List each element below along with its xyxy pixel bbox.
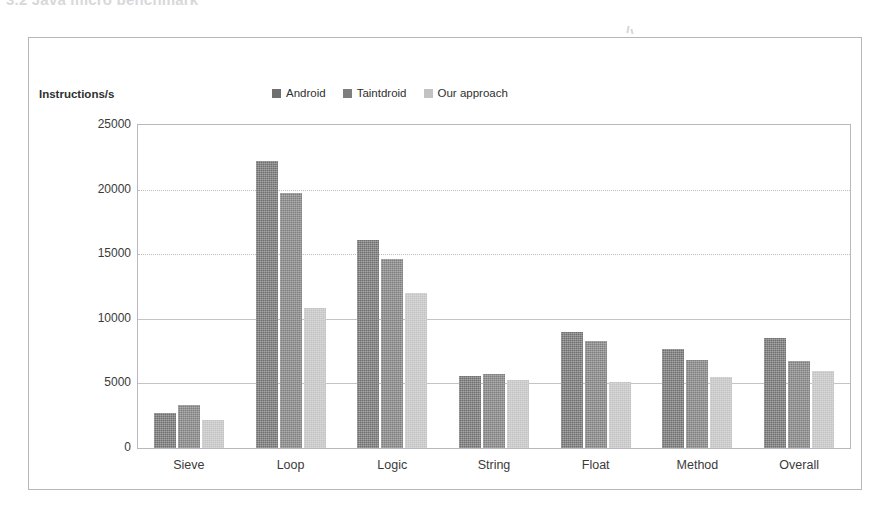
y-axis-tick-label: 5000 [69, 375, 131, 389]
y-axis-tick-label: 25000 [69, 117, 131, 131]
bar [178, 405, 200, 448]
bar [662, 349, 684, 448]
legend-label-taintdroid: Taintdroid [357, 87, 407, 99]
x-axis-tick-label: Logic [377, 458, 407, 472]
y-axis-tick-label: 15000 [69, 246, 131, 260]
x-axis-tick-label: Overall [779, 458, 819, 472]
bar [304, 308, 326, 448]
x-axis-tick-label: Sieve [173, 458, 204, 472]
bar [405, 293, 427, 448]
bars-layer [138, 125, 850, 448]
y-axis-tick-label: 0 [69, 440, 131, 454]
legend-label-our-approach: Our approach [438, 87, 508, 99]
scan-speckle [626, 26, 629, 33]
legend-swatch-our-approach [424, 89, 433, 98]
scan-speckle [630, 29, 633, 34]
x-axis-tick-label: Loop [277, 458, 305, 472]
y-axis-title: Instructions/s [39, 88, 114, 100]
bar [788, 361, 810, 448]
bar [812, 371, 834, 448]
bar [483, 374, 505, 448]
bar [154, 413, 176, 448]
y-axis-tick-label: 20000 [69, 182, 131, 196]
bar [710, 377, 732, 448]
x-axis-tick-label: Float [582, 458, 610, 472]
legend-swatch-android [272, 89, 281, 98]
bar [280, 193, 302, 448]
x-axis-tick-label: Method [677, 458, 719, 472]
y-axis-tick-label: 10000 [69, 311, 131, 325]
chart-legend: Android Taintdroid Our approach [272, 87, 508, 99]
legend-item-android[interactable]: Android [272, 87, 326, 99]
x-axis-tick-labels: SieveLoopLogicStringFloatMethodOverall [138, 458, 850, 486]
bar [686, 360, 708, 449]
y-axis-tick-labels: 0500010000150002000025000 [65, 124, 131, 449]
bar [202, 420, 224, 448]
bar [764, 338, 786, 448]
bar [357, 240, 379, 448]
bar [585, 341, 607, 448]
bar [507, 380, 529, 448]
chart-frame: Instructions/s Android Taintdroid Our ap… [28, 37, 862, 490]
legend-item-taintdroid[interactable]: Taintdroid [343, 87, 407, 99]
page-caption-fragment: 3.2 Java micro benchmark [6, 0, 426, 9]
bar [609, 382, 631, 448]
x-axis-tick-label: String [478, 458, 511, 472]
bar [381, 259, 403, 448]
legend-item-our-approach[interactable]: Our approach [424, 87, 508, 99]
bar [561, 332, 583, 448]
legend-swatch-taintdroid [343, 89, 352, 98]
legend-label-android: Android [286, 87, 326, 99]
bar [459, 376, 481, 448]
bar [256, 161, 278, 448]
